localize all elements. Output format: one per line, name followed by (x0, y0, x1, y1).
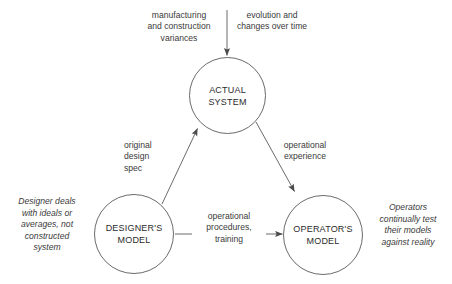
node-actual-system[interactable]: ACTUAL SYSTEM (189, 57, 266, 134)
annotation-operator-note: Operators continually test their models … (368, 202, 448, 248)
node-designers-model-line1: DESIGNER'S (106, 222, 163, 234)
node-operators-model-line1: OPERATOR'S (293, 223, 352, 235)
node-operators-model-line2: MODEL (306, 235, 339, 247)
label-operational-experience: operational experience (272, 140, 338, 163)
label-operational-procedures-training: operational procedures, training (192, 211, 266, 245)
label-manufacturing-variances: manufacturing and construction variances (138, 10, 220, 44)
node-designers-model[interactable]: DESIGNER'S MODEL (94, 194, 174, 274)
diagram-canvas: ACTUAL SYSTEM DESIGNER'S MODEL OPERATOR'… (0, 0, 452, 284)
label-original-design-spec: original design spec (124, 140, 166, 174)
node-actual-system-line1: ACTUAL (209, 84, 246, 96)
node-actual-system-line2: SYSTEM (208, 96, 246, 108)
node-operators-model[interactable]: OPERATOR'S MODEL (283, 195, 363, 275)
label-evolution-changes: evolution and changes over time (232, 10, 312, 33)
arrow-original-design-spec (162, 129, 198, 205)
annotation-designer-note: Designer deals with ideals or averages, … (4, 196, 90, 254)
node-designers-model-line2: MODEL (117, 234, 150, 246)
